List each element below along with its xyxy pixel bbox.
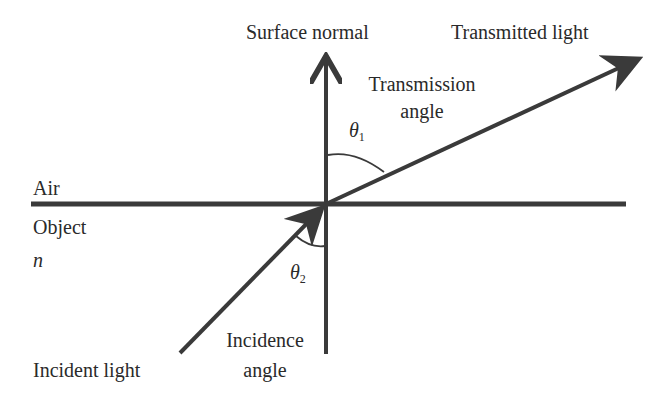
- object-label: Object: [33, 217, 86, 237]
- incident-light-label: Incident light: [33, 360, 140, 380]
- diagram-graphics: [0, 0, 648, 406]
- theta2-arc: [296, 236, 325, 246]
- refraction-diagram: Surface normal Transmitted light Transmi…: [0, 0, 648, 406]
- air-label: Air: [33, 178, 60, 198]
- theta2-label: θ2: [290, 262, 306, 285]
- incidence-angle-label-line2: angle: [210, 360, 320, 380]
- transmission-angle-label-line1: Transmission: [352, 74, 492, 94]
- theta1-arc: [328, 154, 384, 172]
- surface-normal-label: Surface normal: [246, 22, 369, 42]
- incidence-angle-label-line1: Incidence: [210, 330, 320, 350]
- transmitted-light-label: Transmitted light: [451, 22, 589, 42]
- transmission-angle-label-line2: angle: [352, 101, 492, 121]
- theta1-label: θ1: [349, 120, 365, 143]
- refractive-index-label: n: [33, 250, 43, 270]
